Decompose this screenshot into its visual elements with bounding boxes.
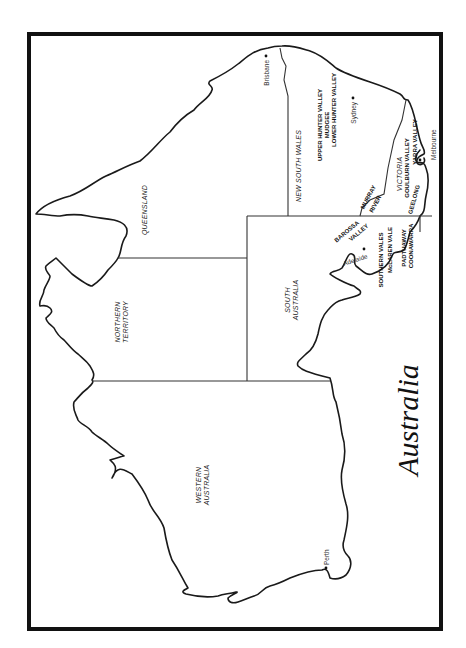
wine-region-coonawarra: COONAWARRA <box>408 223 414 268</box>
city-dot-brisbane <box>265 55 268 58</box>
wine-region-southern-vales: SOUTHERN VALES <box>378 233 384 288</box>
state-label-new-south-wales: NEW SOUTH WALES <box>295 130 302 202</box>
city-label-melbourne: Melbourne <box>430 129 437 160</box>
city-label-perth: Perth <box>323 549 330 565</box>
qld-nsw-border <box>280 48 288 216</box>
wine-region-lower-hunter-valley: LOWER HUNTER VALLEY <box>331 73 337 147</box>
state-label-northern-territory: NORTHERN <box>114 301 121 343</box>
state-label-south-australia: SOUTH <box>284 287 291 313</box>
wine-region-yarra-valley: YARRA VALLEY <box>412 119 418 164</box>
state-label-western-australia: WESTERN <box>195 466 202 503</box>
wine-region-mudgee: MUDGEE <box>324 112 330 138</box>
city-dot-perth <box>325 567 328 570</box>
coastline <box>36 46 428 603</box>
map-title: Australia <box>391 364 424 478</box>
city-label-brisbane: Brisbane <box>263 60 270 86</box>
wine-region-goulburn-valley: GOULBURN VALLEY <box>404 138 410 198</box>
city-label-sydney: Sydney <box>350 101 358 123</box>
city-dot-adelaide <box>363 248 366 251</box>
city-dot-sydney <box>352 97 355 100</box>
state-label-western-australia-2: AUSTRALIA <box>203 465 210 507</box>
wine-region-mclaren-vale: McLAREN VALE <box>387 227 393 273</box>
state-label-queensland: QUEENSLAND <box>141 185 149 235</box>
state-label-south-australia-2: AUSTRALIA <box>292 280 299 322</box>
wine-region-padthaway: PADTHAWAY <box>401 229 407 266</box>
state-label-victoria: VICTORIA <box>396 157 403 192</box>
wine-region-upper-hunter-valley: UPPER HUNTER VALLEY <box>317 89 323 161</box>
australia-map: QUEENSLAND NORTHERN TERRITORY NEW SOUTH … <box>0 0 466 648</box>
state-label-northern-territory-2: TERRITORY <box>122 300 129 343</box>
city-dot-melbourne <box>419 159 422 162</box>
